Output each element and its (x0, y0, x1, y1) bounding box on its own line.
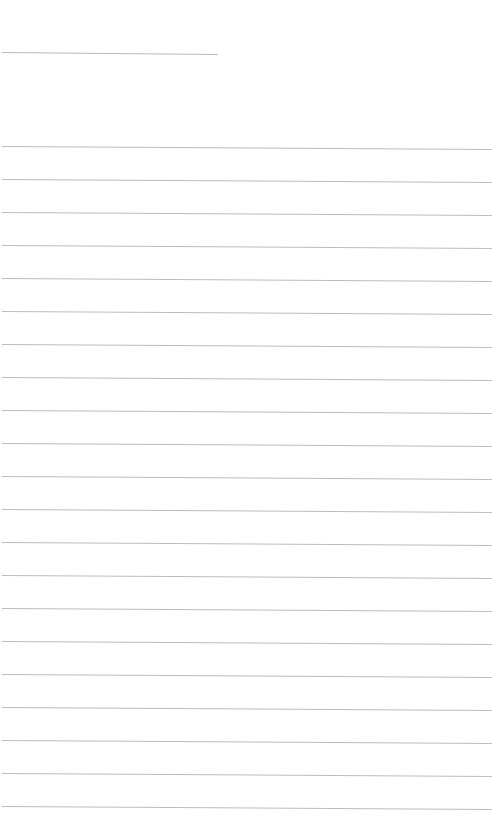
ruled-line (2, 707, 492, 711)
ruled-line (2, 179, 492, 183)
ruled-line (2, 773, 492, 777)
ruled-line (2, 212, 492, 216)
ruled-line (2, 311, 492, 315)
ruled-line (2, 146, 492, 150)
ruled-line (2, 542, 492, 546)
ruled-line (2, 740, 492, 744)
ruled-line (2, 674, 492, 678)
ruled-line (2, 278, 492, 282)
ruled-line (2, 377, 492, 381)
header-line (2, 52, 218, 55)
ruled-line (2, 245, 492, 249)
ruled-line (2, 608, 492, 612)
ruled-line (2, 476, 492, 480)
lined-paper-page (0, 0, 502, 826)
ruled-line (2, 410, 492, 414)
ruled-line (2, 509, 492, 513)
ruled-line (2, 641, 492, 645)
ruled-line (2, 344, 492, 348)
ruled-line (2, 575, 492, 579)
ruled-line (2, 443, 492, 447)
ruled-line (2, 806, 492, 810)
